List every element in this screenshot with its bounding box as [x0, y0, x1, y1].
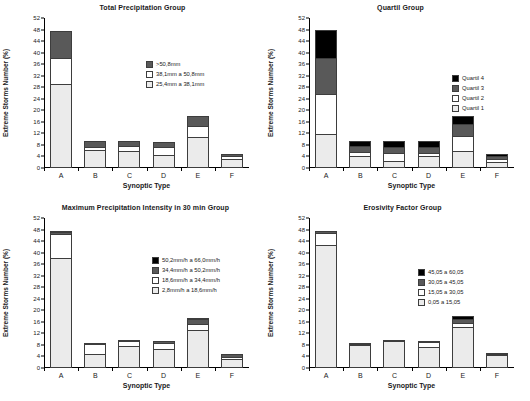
- x-tick-label: E: [460, 172, 465, 179]
- bar-slot: E: [181, 18, 215, 168]
- bar-segment: [315, 58, 337, 94]
- bar-segment: [486, 355, 508, 368]
- x-tick-mark: [412, 368, 413, 371]
- x-tick-mark: [181, 368, 182, 371]
- legend-swatch: [418, 289, 425, 296]
- x-tick-mark: [215, 368, 216, 371]
- legend-swatch: [146, 81, 153, 88]
- legend-item: Quartil 1: [452, 104, 484, 114]
- x-tick-mark: [309, 368, 310, 371]
- stacked-bar[interactable]: [221, 354, 243, 368]
- x-tick-label: F: [230, 172, 234, 179]
- stacked-bar[interactable]: [187, 318, 209, 368]
- legend-label: Quartil 1: [462, 104, 484, 114]
- stacked-bar[interactable]: [118, 141, 140, 168]
- legend-item: Quartil 2: [452, 94, 484, 104]
- x-tick-mark: [78, 368, 79, 371]
- stacked-bar[interactable]: [349, 141, 371, 168]
- bar-segment: [315, 245, 337, 368]
- bar-segment: [187, 137, 209, 168]
- legend-label: Quartil 2: [462, 94, 484, 104]
- chart-title: Total Precipitation Group: [0, 4, 265, 11]
- bar-segment: [452, 116, 474, 124]
- legend-label: 15,05 a 30,05: [428, 288, 463, 298]
- legend-swatch: [418, 299, 425, 306]
- x-tick-label: B: [93, 372, 98, 379]
- bars-container: ABCDEF: [44, 18, 249, 168]
- stacked-bar[interactable]: [315, 231, 337, 368]
- stacked-bar[interactable]: [221, 154, 243, 168]
- x-tick-mark: [309, 168, 310, 171]
- bar-segment: [349, 156, 371, 168]
- x-tick-mark: [215, 168, 216, 171]
- stacked-bar[interactable]: [153, 142, 175, 168]
- x-tick-label: E: [195, 372, 200, 379]
- x-tick-label: F: [230, 372, 234, 379]
- stacked-bar[interactable]: [383, 340, 405, 368]
- bar-slot: F: [480, 18, 514, 168]
- stacked-bar[interactable]: [349, 343, 371, 368]
- x-axis-label: Synoptic Type: [309, 182, 514, 189]
- bar-slot: B: [78, 18, 112, 168]
- x-tick-mark: [377, 168, 378, 171]
- bar-slot: A: [44, 218, 78, 368]
- bar-segment: [383, 153, 405, 161]
- stacked-bar[interactable]: [452, 116, 474, 168]
- bar-segment: [221, 159, 243, 168]
- x-tick-label: D: [426, 372, 431, 379]
- chart-legend: 50,2mm/h a 66,0mm/h34,4mm/h a 50,2mm/h18…: [152, 256, 220, 296]
- bar-segment: [452, 124, 474, 136]
- x-tick-label: D: [426, 172, 431, 179]
- bar-segment: [50, 58, 72, 84]
- x-tick-mark: [112, 368, 113, 371]
- chart-legend: 45,05 a 60,0530,05 a 45,0515,05 a 30,050…: [418, 268, 463, 308]
- bar-segment: [315, 30, 337, 59]
- legend-swatch: [152, 257, 159, 264]
- legend-item: 25,4mm a 38,1mm: [146, 80, 204, 90]
- legend-item: 0,05 a 15,05: [418, 298, 463, 308]
- bar-slot: B: [343, 18, 377, 168]
- stacked-bar[interactable]: [486, 154, 508, 168]
- stacked-bar[interactable]: [84, 141, 106, 168]
- bar-segment: [187, 116, 209, 126]
- chart-title: Quartil Group: [265, 4, 530, 11]
- legend-item: 45,05 a 60,05: [418, 268, 463, 278]
- x-tick-mark: [181, 168, 182, 171]
- stacked-bar[interactable]: [118, 340, 140, 368]
- stacked-bar[interactable]: [418, 141, 440, 168]
- bar-segment: [315, 134, 337, 168]
- x-tick-label: D: [161, 372, 166, 379]
- stacked-bar[interactable]: [153, 341, 175, 368]
- bar-segment: [452, 327, 474, 368]
- stacked-bar[interactable]: [486, 353, 508, 368]
- panel-maximum-precipitation-intensity-group: Maximum Precipitation Intensity in 30 mi…: [0, 200, 265, 400]
- bar-segment: [84, 150, 106, 168]
- bar-slot: C: [377, 18, 411, 168]
- bar-segment: [452, 136, 474, 151]
- stacked-bar[interactable]: [315, 30, 337, 168]
- x-tick-mark: [480, 368, 481, 371]
- stacked-bar[interactable]: [84, 343, 106, 368]
- legend-item: 2,8mm/h a 18,6mm/h: [152, 286, 220, 296]
- stacked-bar[interactable]: [50, 231, 72, 368]
- bar-segment: [418, 347, 440, 368]
- legend-item: 18,6mm/h a 34,4mm/h: [152, 276, 220, 286]
- stacked-bar[interactable]: [383, 141, 405, 168]
- legend-swatch: [452, 85, 459, 92]
- x-tick-label: F: [495, 172, 499, 179]
- stacked-bar[interactable]: [187, 116, 209, 168]
- legend-label: 2,8mm/h a 18,6mm/h: [162, 286, 217, 296]
- x-axis-label: Synoptic Type: [44, 382, 249, 389]
- x-tick-mark: [147, 168, 148, 171]
- legend-label: Quartil 3: [462, 84, 484, 94]
- x-tick-mark: [44, 368, 45, 371]
- x-tick-label: F: [495, 372, 499, 379]
- x-tick-mark: [343, 168, 344, 171]
- stacked-bar[interactable]: [452, 316, 474, 368]
- legend-item: Quartil 4: [452, 74, 484, 84]
- stacked-bar[interactable]: [50, 31, 72, 168]
- stacked-bar[interactable]: [418, 341, 440, 368]
- plot-area: 0481216202428323640444852Extreme Storms …: [44, 18, 249, 168]
- plot-area: 0481216202428323640444852Extreme Storms …: [309, 218, 514, 368]
- y-axis-label: Extreme Storms Number (%): [267, 218, 274, 368]
